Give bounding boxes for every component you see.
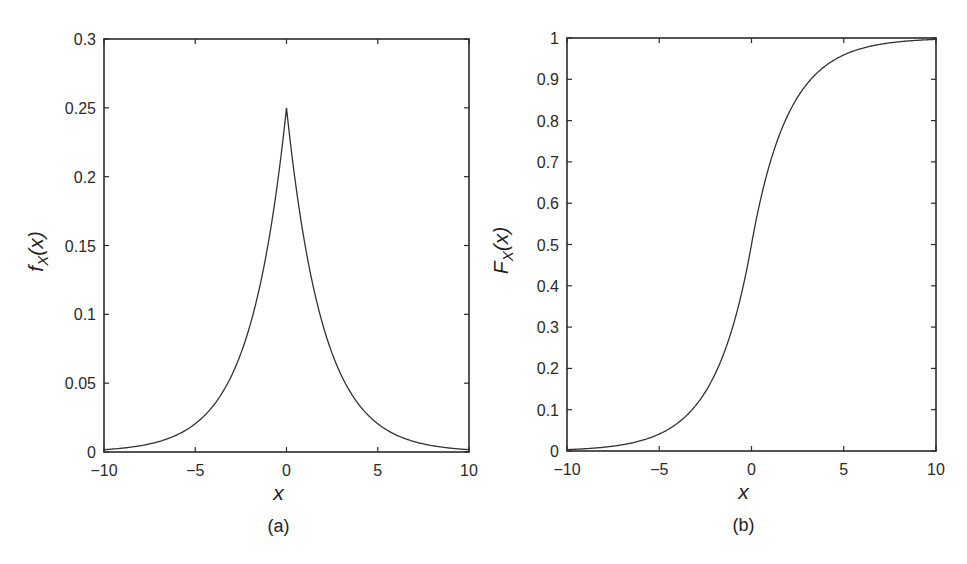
y-tick-label: 0.5 — [537, 237, 559, 254]
x-axis-label: x — [272, 481, 285, 504]
x-tick-label: 10 — [460, 462, 478, 479]
y-tick-label: 1 — [550, 30, 559, 47]
y-tick-label: 0.05 — [65, 375, 96, 392]
figure: −10−5051000.050.10.150.20.250.3xfX(x)(a)… — [0, 0, 967, 564]
y-tick-label: 0.3 — [537, 319, 559, 336]
y-tick-label: 0.25 — [65, 100, 96, 117]
x-tick-label: −10 — [553, 461, 580, 478]
x-tick-label: 10 — [927, 461, 945, 478]
y-tick-label: 0.8 — [537, 113, 559, 130]
x-tick-label: −5 — [186, 462, 204, 479]
panel-label: (a) — [268, 516, 290, 536]
x-tick-label: 5 — [839, 461, 848, 478]
x-tick-label: 5 — [373, 462, 382, 479]
data-line-fxx — [104, 108, 469, 450]
data-line-fxx — [567, 39, 936, 449]
y-tick-label: 0.1 — [537, 402, 559, 419]
y-tick-label: 0.15 — [65, 238, 96, 255]
y-tick-label: 0.2 — [537, 360, 559, 377]
plot-frame — [104, 39, 469, 452]
y-tick-label: 0.4 — [537, 278, 559, 295]
y-tick-label: 0 — [550, 443, 559, 460]
x-tick-label: 0 — [747, 461, 756, 478]
y-tick-label: 0.3 — [74, 31, 96, 48]
y-tick-label: 0.2 — [74, 169, 96, 186]
y-axis-label: FX(x) — [489, 227, 516, 274]
y-tick-label: 0.6 — [537, 195, 559, 212]
x-tick-label: 0 — [282, 462, 291, 479]
y-axis-label: fX(x) — [24, 231, 51, 271]
y-tick-label: 0.9 — [537, 71, 559, 88]
chart-panel-pdf: −10−5051000.050.10.150.20.250.3xfX(x)(a) — [24, 31, 478, 536]
y-tick-label: 0.7 — [537, 154, 559, 171]
x-tick-label: −5 — [650, 461, 668, 478]
y-tick-label: 0 — [87, 444, 96, 461]
x-tick-label: −10 — [90, 462, 117, 479]
x-axis-label: x — [737, 480, 750, 503]
chart-panel-cdf: −10−5051000.10.20.30.40.50.60.70.80.91xF… — [489, 30, 945, 535]
y-tick-label: 0.1 — [74, 306, 96, 323]
panel-label: (b) — [733, 515, 755, 535]
